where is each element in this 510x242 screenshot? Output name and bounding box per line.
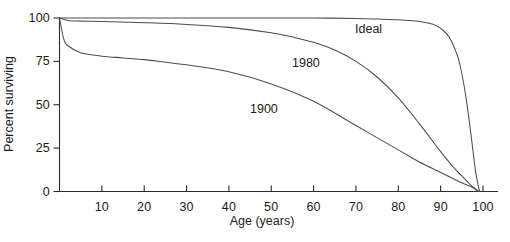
x-axis-ticks bbox=[102, 186, 483, 192]
x-tick-label: 30 bbox=[179, 200, 193, 214]
y-tick-label: 25 bbox=[10, 141, 50, 155]
x-tick-label: 60 bbox=[306, 200, 320, 214]
y-axis-ticks bbox=[54, 18, 60, 192]
x-tick-label: 90 bbox=[433, 200, 447, 214]
y-tick-label: 75 bbox=[10, 54, 50, 68]
y-tick-label: 50 bbox=[10, 98, 50, 112]
curve-label-1900: 1900 bbox=[250, 102, 278, 116]
x-tick-label: 80 bbox=[391, 200, 405, 214]
survival-curves-chart: 0255075100 102030405060708090100 Percent… bbox=[0, 0, 510, 242]
y-tick-label: 100 bbox=[10, 11, 50, 25]
x-tick-label: 10 bbox=[95, 200, 109, 214]
x-tick-label: 20 bbox=[137, 200, 151, 214]
x-axis-title: Age (years) bbox=[230, 214, 295, 228]
x-tick-label: 100 bbox=[472, 200, 493, 214]
x-tick-label: 50 bbox=[264, 200, 278, 214]
y-axis-title: Percent surviving bbox=[2, 56, 16, 152]
curve-label-ideal: Ideal bbox=[355, 22, 382, 36]
curve-label-1980: 1980 bbox=[292, 56, 320, 70]
x-tick-label: 70 bbox=[349, 200, 363, 214]
x-tick-label: 40 bbox=[222, 200, 236, 214]
y-tick-label: 0 bbox=[10, 185, 50, 199]
